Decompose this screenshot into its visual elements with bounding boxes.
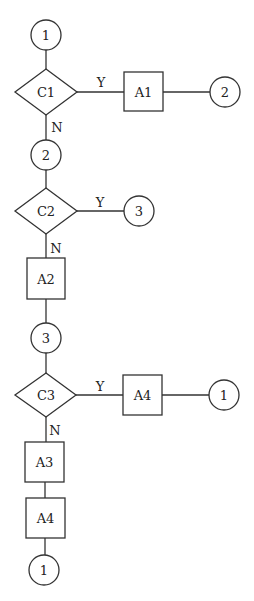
connector-2: 2 bbox=[31, 140, 61, 170]
connector-1-top: 1 bbox=[31, 20, 61, 50]
action-a1: A1 bbox=[124, 72, 163, 111]
edge-label-c1-yes: Y bbox=[96, 75, 106, 90]
decision-c3: C3 bbox=[15, 373, 76, 417]
connector-1-right: 1 bbox=[209, 380, 239, 410]
svg-text:1: 1 bbox=[42, 28, 50, 43]
svg-text:C3: C3 bbox=[37, 388, 55, 403]
svg-text:C1: C1 bbox=[37, 85, 55, 100]
connector-3: 3 bbox=[31, 323, 61, 353]
edge-label-c2-no: N bbox=[50, 241, 61, 256]
decision-c2: C2 bbox=[15, 188, 77, 234]
svg-text:2: 2 bbox=[42, 148, 50, 163]
svg-text:A4: A4 bbox=[36, 511, 55, 526]
svg-text:A3: A3 bbox=[35, 455, 54, 470]
svg-text:A2: A2 bbox=[36, 272, 55, 287]
svg-text:1: 1 bbox=[40, 563, 48, 578]
edge-label-c3-yes: Y bbox=[95, 379, 105, 394]
svg-text:2: 2 bbox=[221, 85, 229, 100]
edge-label-c3-no: N bbox=[49, 423, 60, 438]
svg-text:3: 3 bbox=[135, 204, 143, 219]
action-a2: A2 bbox=[27, 258, 65, 299]
connector-1-bottom: 1 bbox=[29, 555, 59, 585]
action-a4-right: A4 bbox=[123, 375, 162, 415]
action-a4: A4 bbox=[26, 498, 65, 538]
svg-text:3: 3 bbox=[42, 331, 50, 346]
connector-3-right: 3 bbox=[124, 196, 154, 226]
action-a3: A3 bbox=[25, 442, 64, 482]
svg-text:A4: A4 bbox=[133, 388, 152, 403]
svg-text:C2: C2 bbox=[37, 204, 55, 219]
edge-label-c1-no: N bbox=[51, 120, 62, 135]
edge-label-c2-yes: Y bbox=[95, 195, 105, 210]
svg-text:1: 1 bbox=[220, 388, 228, 403]
decision-c1: C1 bbox=[15, 69, 77, 115]
svg-text:A1: A1 bbox=[134, 85, 153, 100]
connector-2-right: 2 bbox=[210, 77, 240, 107]
flowchart: 1 C1 Y A1 2 N 2 C2 Y 3 N A2 3 bbox=[0, 0, 254, 601]
